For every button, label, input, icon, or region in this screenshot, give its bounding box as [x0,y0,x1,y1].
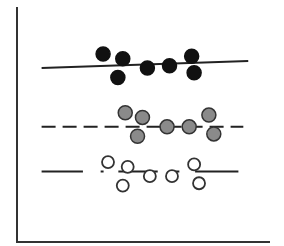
data-point-gray-0 [118,106,132,120]
data-point-open-6 [193,177,205,189]
data-point-black-4 [163,59,177,73]
data-point-open-0 [102,156,114,168]
scatter-chart [0,0,284,246]
data-point-black-5 [185,49,199,63]
data-point-open-3 [144,170,156,182]
data-point-open-2 [117,180,129,192]
data-point-open-1 [122,161,134,173]
data-point-gray-6 [207,127,221,141]
data-point-gray-4 [182,120,196,134]
data-point-black-0 [96,47,110,61]
data-point-black-3 [140,61,154,75]
data-point-gray-1 [135,110,149,124]
data-point-gray-2 [131,129,145,143]
data-point-black-1 [116,52,130,66]
data-point-black-6 [187,66,201,80]
data-point-black-2 [111,71,125,85]
data-point-gray-5 [202,108,216,122]
data-point-gray-3 [160,120,174,134]
data-point-open-5 [188,158,200,170]
data-point-open-4 [166,170,178,182]
